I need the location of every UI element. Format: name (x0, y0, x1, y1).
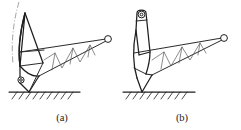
centerline-arc-a (12, 2, 19, 64)
base-brace-a (29, 63, 43, 92)
crane-diagram-svg: (a) (0, 0, 241, 130)
ground-hatching-a (12, 92, 73, 99)
apex-pivot-hub-b (140, 13, 143, 16)
boom-bottom-chord-b (152, 40, 222, 75)
boom-heel-link-b (146, 74, 152, 75)
boom-bottom-chord-a (39, 41, 106, 76)
truss-web-zigzag-a (44, 45, 95, 68)
figure-sheet: (a) (0, 0, 241, 130)
panel-b: (b) (123, 10, 227, 124)
base-bracket-b (137, 75, 152, 92)
panel-a: (a) (9, 2, 111, 124)
caption-a: (a) (56, 112, 68, 124)
boom-top-chord-a (20, 39, 106, 52)
caption-b: (b) (176, 112, 189, 124)
ground-hatching-b (126, 92, 187, 99)
base-pivot-hub-a (20, 79, 23, 82)
luffing-strut-a (20, 66, 39, 76)
boom-tip-pulley-b (221, 35, 228, 42)
boom-tip-pulley-a (105, 36, 112, 43)
truss-post-b-1 (161, 52, 164, 69)
mast-lower-edge-a (20, 63, 43, 66)
mast-inner-curve-b (146, 52, 150, 74)
mast-inner-edge-a (25, 13, 43, 63)
